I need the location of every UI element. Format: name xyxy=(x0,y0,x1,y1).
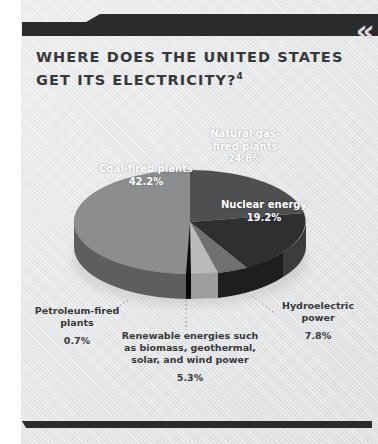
page-title-text: WHERE DOES THE UNITED STATES GET ITS ELE… xyxy=(36,49,343,88)
slice-label-nuclear: Nuclear energy 19.2% xyxy=(212,199,316,224)
callout-renewable: Renewable energies such as biomass, geot… xyxy=(110,330,270,384)
callout-hydro-line1: Hydroelectric xyxy=(282,300,354,311)
left-margin-strip xyxy=(0,0,21,444)
callout-hydroelectric: Hydroelectric power 7.8% xyxy=(268,300,368,342)
slice-label-coal-percent: 42.2% xyxy=(129,176,164,187)
callout-renewable-line2: as biomass, geothermal, xyxy=(124,342,256,353)
slice-label-gas-line1: Natural gas- xyxy=(210,128,280,139)
double-chevron-left-icon: « xyxy=(326,18,372,44)
page-title: WHERE DOES THE UNITED STATES GET ITS ELE… xyxy=(36,48,356,90)
footnote-marker: 4 xyxy=(237,71,243,81)
callout-petroleum-line1: Petroleum-fired xyxy=(35,305,119,316)
callout-renewable-line1: Renewable energies such xyxy=(122,330,259,341)
callout-hydro-line2: power xyxy=(301,312,334,323)
slice-label-nuclear-name: Nuclear energy xyxy=(221,199,307,210)
slice-label-coal: Coal-fired plants 42.2% xyxy=(86,163,206,188)
slice-label-nuclear-percent: 19.2% xyxy=(247,212,282,223)
slice-label-natural-gas: Natural gas- fired plants 24.8% xyxy=(196,128,294,166)
callout-petroleum-line2: plants xyxy=(60,317,93,328)
callout-renewable-line3: solar, and wind power xyxy=(131,354,248,365)
slice-label-gas-line2: fired plants xyxy=(213,141,278,152)
callout-hydro-percent: 7.8% xyxy=(268,330,368,342)
slice-label-gas-percent: 24.8% xyxy=(228,153,263,164)
slice-label-coal-name: Coal-fired plants xyxy=(99,163,193,174)
callout-renewable-percent: 5.3% xyxy=(110,372,270,384)
infographic-page: « WHERE DOES THE UNITED STATES GET ITS E… xyxy=(0,0,378,444)
footer-bar xyxy=(22,421,372,428)
